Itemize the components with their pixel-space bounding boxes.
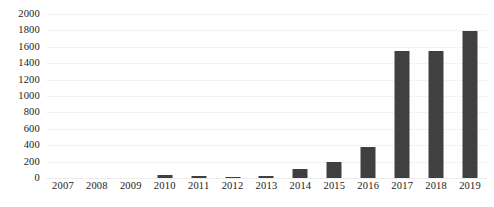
bar-chart: 2000180016001400120010008006004002000 20… bbox=[0, 0, 494, 207]
y-axis-tick-label: 400 bbox=[24, 140, 40, 151]
x-axis-tick-label: 2014 bbox=[290, 181, 312, 192]
x-axis-tick-label: 2019 bbox=[459, 181, 481, 192]
bar bbox=[463, 31, 478, 178]
y-axis-tick-label: 0 bbox=[35, 173, 40, 184]
x-axis-tick-label: 2015 bbox=[323, 181, 345, 192]
bar bbox=[225, 177, 240, 178]
bar bbox=[429, 51, 444, 179]
x-axis-tick-label: 2018 bbox=[425, 181, 447, 192]
x-axis-tick-label: 2016 bbox=[357, 181, 379, 192]
bar-slot bbox=[46, 14, 80, 178]
y-axis-tick-label: 1400 bbox=[18, 58, 40, 69]
bar-slot bbox=[182, 14, 216, 178]
y-axis-tick-label: 1200 bbox=[18, 74, 40, 85]
bar-slot bbox=[385, 14, 419, 178]
y-axis-tick-label: 200 bbox=[24, 156, 40, 167]
bar bbox=[191, 176, 206, 178]
bar-slot bbox=[216, 14, 250, 178]
y-axis-tick-label: 1600 bbox=[18, 42, 40, 53]
x-axis-tick-label: 2013 bbox=[256, 181, 278, 192]
bar-slot bbox=[80, 14, 114, 178]
x-axis-tick-label: 2017 bbox=[391, 181, 413, 192]
bar-slot bbox=[419, 14, 453, 178]
y-axis-tick-label: 1800 bbox=[18, 25, 40, 36]
bar bbox=[395, 51, 410, 178]
bar-slot bbox=[250, 14, 284, 178]
bar bbox=[327, 162, 342, 178]
x-axis-tick-label: 2009 bbox=[120, 181, 142, 192]
x-axis-tick-label: 2012 bbox=[222, 181, 244, 192]
x-axis-tick-labels: 2007200820092010201120122013201420152016… bbox=[46, 181, 487, 203]
bar-slot bbox=[351, 14, 385, 178]
bar-slot bbox=[317, 14, 351, 178]
y-axis-tick-label: 800 bbox=[24, 107, 40, 118]
bar-slot bbox=[453, 14, 487, 178]
bar bbox=[293, 169, 308, 178]
y-axis-tick-label: 1000 bbox=[18, 91, 40, 102]
bar bbox=[259, 176, 274, 178]
x-axis-tick-label: 2010 bbox=[154, 181, 176, 192]
y-axis-tick-labels: 2000180016001400120010008006004002000 bbox=[0, 0, 46, 207]
bar bbox=[157, 175, 172, 178]
x-axis-tick-label: 2008 bbox=[86, 181, 108, 192]
bar-series bbox=[46, 14, 487, 178]
bar-slot bbox=[114, 14, 148, 178]
y-axis-tick-label: 2000 bbox=[18, 9, 40, 20]
bar bbox=[361, 147, 376, 178]
y-axis-tick-label: 600 bbox=[24, 124, 40, 135]
gridline bbox=[46, 178, 487, 179]
x-axis-tick-label: 2007 bbox=[52, 181, 74, 192]
x-axis-tick-label: 2011 bbox=[188, 181, 209, 192]
bar-slot bbox=[148, 14, 182, 178]
bar-slot bbox=[283, 14, 317, 178]
